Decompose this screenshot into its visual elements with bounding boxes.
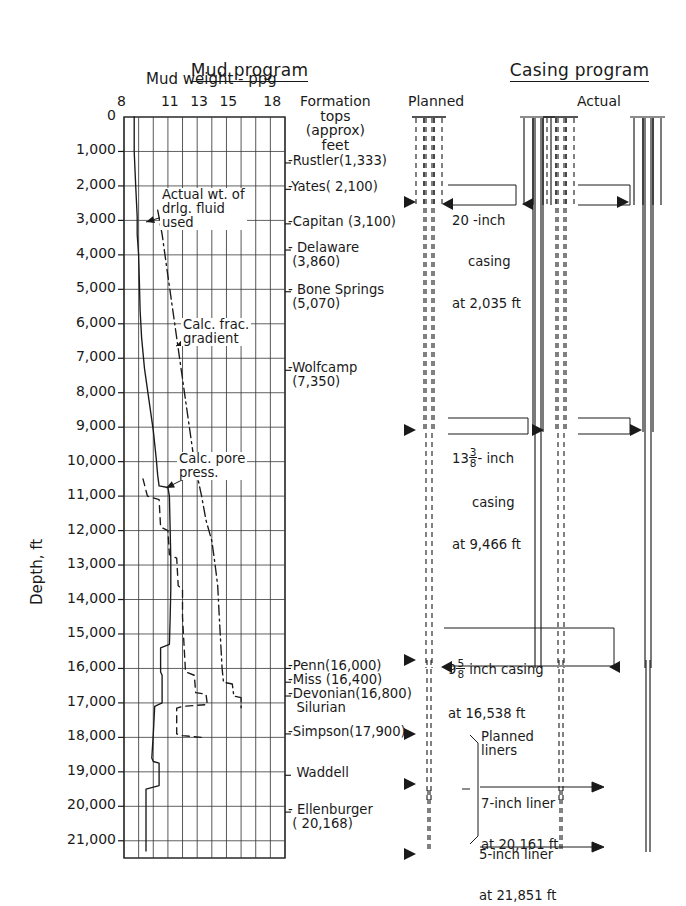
curve-annotation-0: Actual wt. of drlg. fluid used: [160, 188, 247, 230]
formation-top-7: -Miss (16,400): [288, 673, 382, 687]
production-casing-depth: at 16,538 ft: [448, 707, 544, 721]
formation-top-0: -Rustler(1,333): [288, 154, 387, 168]
mud-weight-tick-15: 15: [219, 94, 237, 109]
planned-liners-label: Planned liners: [481, 730, 534, 758]
formation-top-10: Waddell: [288, 766, 349, 780]
depth-tick-6000: 6,000: [44, 315, 116, 330]
depth-tick-17000: 17,000: [44, 694, 116, 709]
depth-tick-20000: 20,000: [44, 797, 116, 812]
mud-weight-tick-11: 11: [161, 94, 179, 109]
five-inch-liner-depth: at 21,851 ft: [479, 889, 556, 903]
production-casing-size-unit: inch casing: [465, 662, 544, 677]
intermediate-casing-size-unit: - inch: [477, 451, 514, 466]
formation-top-4: - Bone Springs (5,070): [288, 283, 384, 311]
depth-tick-21000: 21,000: [44, 832, 116, 847]
depth-tick-4000: 4,000: [44, 246, 116, 261]
curve-annotation-1: Calc. frac. gradient: [181, 318, 251, 346]
surface-casing-depth: at 2,035 ft: [452, 297, 521, 311]
depth-tick-3000: 3,000: [44, 211, 116, 226]
fraction-numerator: 5: [456, 658, 465, 669]
actual-casing-schematic: [520, 117, 555, 668]
mud-weight-tick-13: 13: [190, 94, 208, 109]
depth-tick-12000: 12,000: [44, 522, 116, 537]
intermediate-casing-size: 1338- inch: [452, 447, 521, 469]
depth-tick-9000: 9,000: [44, 418, 116, 433]
formation-top-9: -Simpson(17,900): [288, 725, 406, 739]
intermediate-casing-depth: at 9,466 ft: [452, 538, 521, 552]
surface-casing-size: 20 -inch: [452, 214, 521, 228]
intermediate-casing-size-whole: 13: [452, 451, 469, 466]
actual-casing-schematic-right: [630, 117, 665, 852]
depth-tick-14000: 14,000: [44, 591, 116, 606]
mud-weight-tick-8: 8: [117, 94, 126, 109]
depth-tick-18000: 18,000: [44, 728, 116, 743]
depth-tick-8000: 8,000: [44, 384, 116, 399]
depth-tick-5000: 5,000: [44, 280, 116, 295]
formation-top-6: -Penn(16,000): [288, 659, 382, 673]
production-casing-size-fraction: 58: [456, 658, 465, 680]
depth-tick-13000: 13,000: [44, 556, 116, 571]
fraction-denominator: 8: [456, 668, 465, 680]
surface-casing-type: casing: [468, 255, 521, 269]
curve-calc-pore-press: [143, 479, 207, 741]
mud-weight-tick-18: 18: [263, 94, 281, 109]
five-inch-liner-callout: 5-inch liner at 21,851 ft: [479, 820, 556, 906]
depth-tick-15000: 15,000: [44, 625, 116, 640]
depth-tick-7000: 7,000: [44, 349, 116, 364]
formation-top-3: - Delaware (3,860): [288, 241, 359, 269]
depth-tick-2000: 2,000: [44, 177, 116, 192]
depth-tick-10000: 10,000: [44, 453, 116, 468]
intermediate-casing-callout: 1338- inch casing at 9,466 ft: [452, 419, 521, 580]
intermediate-casing-type: casing: [472, 496, 521, 510]
planned-casing-schematic-right: [547, 118, 574, 852]
depth-tick-19000: 19,000: [44, 763, 116, 778]
curve-annotation-2: Calc. pore press.: [177, 452, 247, 480]
five-inch-liner-size: 5-inch liner: [479, 848, 556, 862]
depth-tick-1000: 1,000: [44, 142, 116, 157]
depth-tick-11000: 11,000: [44, 487, 116, 502]
surface-casing-callout: 20 -inch casing at 2,035 ft: [452, 186, 521, 338]
casing-set-depth-arrows: [404, 196, 642, 860]
formation-top-1: -Yates( 2,100): [288, 180, 378, 194]
planned-casing-schematic: [416, 118, 442, 852]
formation-top-8: -Devonian(16,800) Silurian: [288, 687, 412, 715]
formation-top-11: - Ellenburger ( 20,168): [288, 803, 373, 831]
seven-inch-liner-size: 7-inch liner: [481, 797, 558, 811]
depth-tick-0: 0: [44, 108, 116, 123]
production-casing-size-whole: 9: [448, 662, 456, 677]
production-casing-size: 958 inch casing: [448, 658, 544, 680]
depth-tick-16000: 16,000: [44, 659, 116, 674]
formation-top-2: -Capitan (3,100): [288, 215, 396, 229]
formation-top-5: -Wolfcamp (7,350): [288, 361, 357, 389]
